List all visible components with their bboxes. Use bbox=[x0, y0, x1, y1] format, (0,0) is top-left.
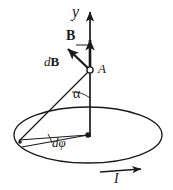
radius-vector-line bbox=[19, 70, 90, 141]
current-element-dot bbox=[18, 140, 22, 144]
diagram-canvas bbox=[0, 0, 173, 190]
loop-center-dot bbox=[85, 132, 90, 137]
dB-vector-label: dB bbox=[44, 55, 59, 68]
physics-diagram-figure: y B A dB α dφ I bbox=[0, 0, 173, 190]
B-vector-label: B bbox=[66, 29, 75, 43]
dphi-angle-label: dφ bbox=[52, 136, 66, 149]
point-a-marker bbox=[87, 67, 93, 73]
dB-vector-arrow bbox=[68, 49, 90, 70]
y-axis-label: y bbox=[72, 4, 79, 20]
dB-label-B: B bbox=[51, 54, 60, 69]
alpha-angle-label: α bbox=[73, 87, 80, 101]
point-a-label: A bbox=[98, 62, 106, 75]
current-label: I bbox=[114, 172, 119, 186]
current-direction-arrow bbox=[100, 169, 141, 172]
